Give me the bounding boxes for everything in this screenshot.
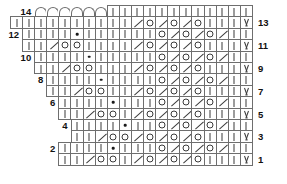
- row-number-label-10: 10: [0, 52, 31, 64]
- row-number-label-3: 3: [258, 131, 286, 143]
- knitting-chart: 1413121110987654321: [0, 0, 287, 184]
- row-number-label-12: 12: [0, 29, 19, 41]
- row-number-label-7: 7: [258, 86, 286, 98]
- row-number-label-11: 11: [258, 40, 286, 52]
- row-number-label-9: 9: [258, 63, 286, 75]
- row-number-label-1: 1: [258, 154, 286, 166]
- row-number-label-4: 4: [0, 120, 68, 132]
- row-number-label-6: 6: [0, 97, 55, 109]
- row-number-label-13: 13: [258, 17, 286, 29]
- row-number-label-5: 5: [258, 109, 286, 121]
- slip-stitch-cell: [240, 153, 253, 165]
- row-number-label-8: 8: [0, 74, 43, 86]
- row-number-label-2: 2: [0, 143, 55, 155]
- chart-row-1: [58, 154, 253, 166]
